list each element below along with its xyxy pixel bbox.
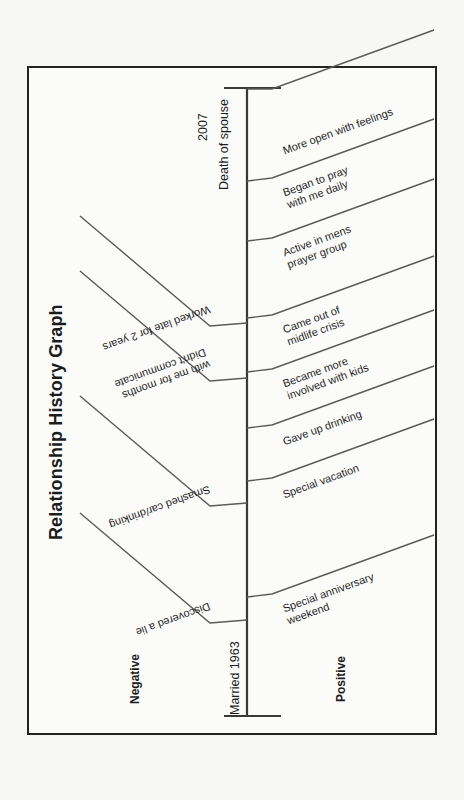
negative-event-line-3 [80, 513, 247, 623]
negative-event-lines [80, 216, 247, 623]
axis-bottom-event-label: Married 1963 [228, 641, 242, 715]
positive-event-line-3 [247, 256, 434, 318]
positive-event-line-0 [247, 30, 434, 89]
screenshot-page: Relationship History Graph 2007 Death of… [0, 0, 464, 800]
axis-top-year-label: 2007 [196, 113, 210, 141]
negative-event-line-2 [80, 396, 247, 506]
axis-top-event-label: Death of spouse [217, 99, 231, 190]
page-title: Relationship History Graph [46, 304, 67, 540]
negative-event-line-0 [80, 216, 247, 326]
pole-label-positive: Positive [334, 656, 348, 702]
pole-label-negative: Negative [128, 654, 142, 704]
